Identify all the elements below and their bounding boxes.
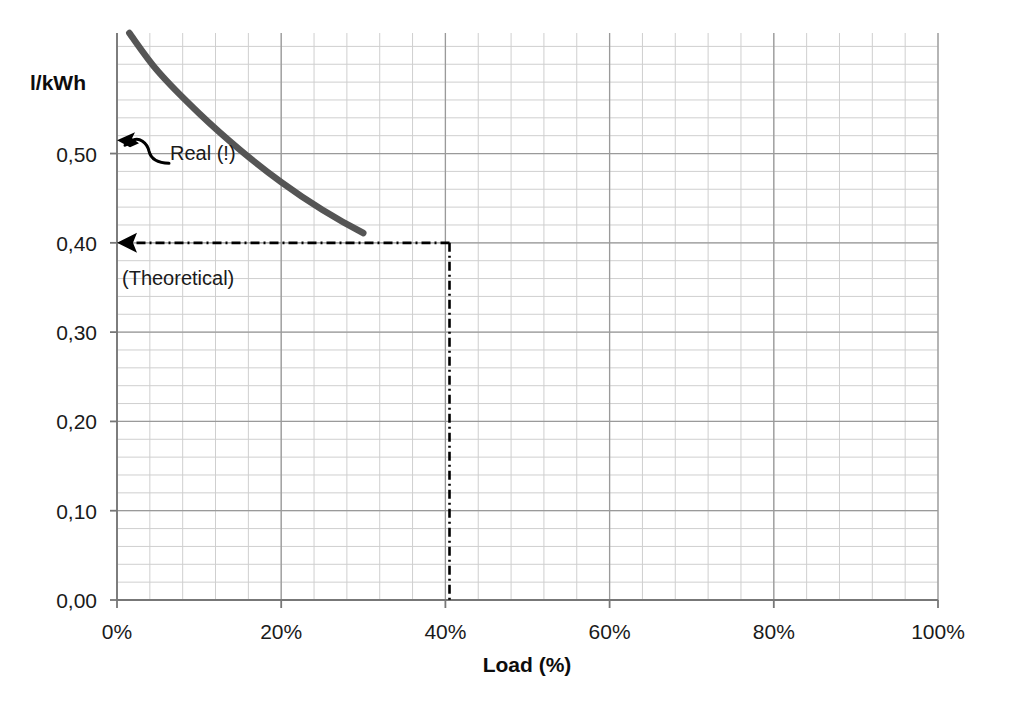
fuel-consumption-vs-load-chart: 0,000,100,200,300,400,50 0%20%40%60%80%1…	[0, 0, 1010, 717]
x-axis-title: Load (%)	[483, 653, 572, 676]
y-axis-title: l/kWh	[30, 71, 86, 94]
x-axis-tick-label: 60%	[589, 620, 631, 643]
theoretical-annotation-label: (Theoretical)	[122, 267, 234, 289]
x-axis-tick-label: 100%	[911, 620, 965, 643]
chart-container: 0,000,100,200,300,400,50 0%20%40%60%80%1…	[0, 0, 1010, 717]
y-axis-tick-label: 0,50	[56, 143, 97, 166]
x-axis-tick-label: 20%	[260, 620, 302, 643]
y-axis-tick-label: 0,20	[56, 410, 97, 433]
y-axis-tick-label: 0,00	[56, 589, 97, 612]
x-axis-tick-label: 40%	[424, 620, 466, 643]
x-axis-tick-label: 0%	[102, 620, 132, 643]
y-axis-tick-label: 0,30	[56, 321, 97, 344]
y-axis-tick-label: 0,40	[56, 232, 97, 255]
real-annotation-label: Real (!)	[170, 142, 236, 164]
x-axis-tick-label: 80%	[753, 620, 795, 643]
y-axis-tick-label: 0,10	[56, 500, 97, 523]
chart-background	[0, 0, 1010, 717]
